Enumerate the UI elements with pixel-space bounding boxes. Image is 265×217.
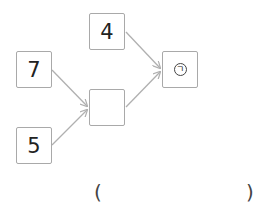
node-top: 4 xyxy=(89,13,125,50)
node-top-value: 4 xyxy=(100,20,113,44)
arrow-7-to-middle xyxy=(52,70,87,106)
answer-blank[interactable] xyxy=(110,180,245,204)
arrow-4-to-result xyxy=(126,32,160,68)
arrow-middle-to-result xyxy=(126,72,160,107)
node-result: ㄱ xyxy=(162,51,198,88)
result-marker-label: ㄱ xyxy=(176,65,184,74)
answer-close-paren: ) xyxy=(246,180,254,204)
arrow-5-to-middle xyxy=(52,110,87,145)
node-middle-blank[interactable] xyxy=(89,89,125,126)
answer-open-paren: ( xyxy=(94,180,102,204)
node-left-bottom: 5 xyxy=(16,127,52,164)
circled-giyeok-marker: ㄱ xyxy=(174,63,187,76)
node-left-top: 7 xyxy=(16,51,52,88)
node-left-bottom-value: 5 xyxy=(27,134,40,158)
node-left-top-value: 7 xyxy=(27,58,40,82)
